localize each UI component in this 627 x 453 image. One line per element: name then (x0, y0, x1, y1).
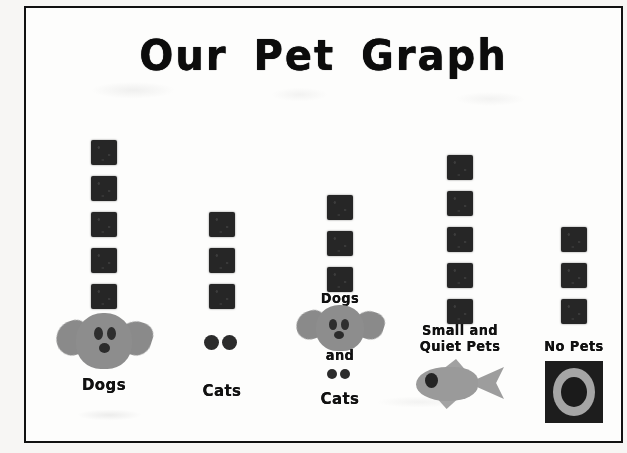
column-footer-small-and-quiet-pets: Small and Quiet Pets (404, 324, 516, 442)
graph-square (327, 267, 353, 292)
graph-column-no-pets: No Pets (518, 104, 623, 442)
column-label-dogs: Dogs (48, 376, 160, 394)
graph-square (447, 227, 473, 252)
column-label-small-and-quiet-pets: Small and Quiet Pets (404, 323, 516, 354)
graph-square (561, 227, 587, 252)
fish-icon (412, 359, 508, 411)
square-stack-dogs-and-cats (284, 195, 396, 292)
graph-square (447, 299, 473, 324)
column-label-cats: Cats (166, 382, 278, 400)
graph-square (209, 212, 235, 237)
column-label-cats-line: Cats (284, 391, 396, 409)
square-stack-cats (166, 212, 278, 309)
graph-square (447, 263, 473, 288)
column-label-and-line: and (284, 348, 396, 363)
graph-square (447, 155, 473, 180)
graph-square (561, 299, 587, 324)
graph-square (91, 284, 117, 309)
column-footer-dogs: Dogs (48, 309, 160, 442)
square-stack-dogs (48, 140, 160, 309)
graph-square (327, 195, 353, 220)
page-title: Our Pet Graph (26, 30, 621, 80)
column-label-no-pets: No Pets (518, 340, 623, 355)
graph-column-dogs-and-cats: Dogs and Cats (284, 104, 396, 442)
graph-square (447, 191, 473, 216)
graph-square (561, 263, 587, 288)
graph-column-cats: Cats (166, 104, 278, 442)
cat-eyes-icon (200, 335, 244, 353)
graph-square (91, 140, 117, 165)
graph-column-dogs: Dogs (48, 104, 160, 442)
square-stack-small-and-quiet-pets (404, 155, 516, 324)
graph-square (91, 176, 117, 201)
graph-square (91, 248, 117, 273)
column-footer-no-pets: No Pets (518, 324, 623, 442)
column-footer-cats: Cats (166, 309, 278, 442)
worksheet-page: Our Pet Graph Dogs (24, 6, 623, 443)
cat-eyes-icon (325, 369, 355, 381)
square-stack-no-pets (518, 227, 623, 324)
pictograph-plot-area: Dogs Cats (26, 104, 621, 442)
graph-square (209, 284, 235, 309)
graph-square (209, 248, 235, 273)
dog-face-icon (56, 309, 152, 371)
graph-square (327, 231, 353, 256)
graph-square (91, 212, 117, 237)
no-pets-icon (545, 361, 603, 423)
graph-column-small-and-quiet-pets: Small and Quiet Pets (404, 104, 516, 442)
column-footer-dogs-and-cats: Dogs and Cats (284, 292, 396, 442)
